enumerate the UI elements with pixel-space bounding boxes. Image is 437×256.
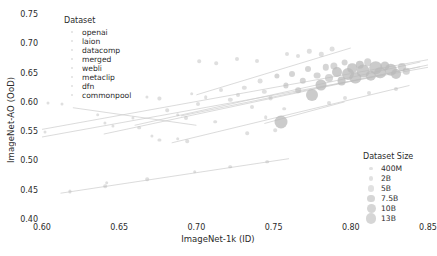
legend-size-item[interactable]: 5B	[363, 184, 433, 194]
legend-item-label: merged	[80, 55, 111, 64]
trend-line	[61, 159, 290, 194]
legend-size-item[interactable]: 13B	[363, 214, 433, 224]
data-point	[296, 87, 302, 93]
legend-size-label: 5B	[379, 184, 391, 193]
legend-size-label: 400M	[379, 164, 402, 173]
legend-dataset-size: Dataset Size 400M2B5B7.5B10B13B	[363, 152, 433, 224]
data-point	[198, 60, 202, 64]
legend-size-label: 13B	[379, 214, 396, 223]
y-axis-tick-label: 0.65	[4, 68, 38, 77]
y-axis-tick-label: 0.50	[4, 156, 38, 165]
data-point	[61, 103, 64, 106]
y-axis-tick-label: 0.45	[4, 185, 38, 194]
data-point	[306, 89, 318, 101]
data-point	[96, 113, 100, 117]
data-point	[190, 92, 194, 96]
data-point	[184, 116, 188, 120]
legend-item-label: commonpool	[80, 91, 131, 100]
data-point	[266, 160, 270, 164]
data-point	[246, 132, 250, 136]
legend-size-item[interactable]: 10B	[363, 204, 433, 214]
legend-item[interactable]: laion	[64, 37, 154, 46]
data-point	[313, 72, 320, 79]
legend-size-item[interactable]: 2B	[363, 174, 433, 184]
data-point	[235, 57, 239, 61]
legend-size-marker-icon	[363, 185, 379, 191]
legend-size-marker-icon	[363, 204, 379, 213]
data-point	[204, 95, 208, 99]
x-axis-label: ImageNet-1k (ID)	[0, 234, 436, 244]
data-point	[285, 52, 289, 56]
y-axis-ticks: 0.400.450.500.550.600.650.700.75	[0, 0, 38, 256]
legend-item[interactable]: openai	[64, 28, 154, 37]
legend-size-item[interactable]: 7.5B	[363, 194, 433, 204]
legend-marker-icon	[64, 85, 80, 87]
data-point	[283, 107, 287, 111]
legend-size-marker-icon	[363, 213, 379, 223]
data-point	[257, 79, 262, 84]
legend-size-label: 2B	[379, 174, 391, 183]
legend-item[interactable]: metaclip	[64, 73, 154, 82]
legend-dataset: Dataset openailaiondatacompmergedweblime…	[64, 16, 154, 100]
data-point	[213, 120, 217, 124]
data-point	[215, 61, 219, 65]
data-point	[255, 59, 259, 63]
legend-size-title: Dataset Size	[363, 152, 433, 161]
legend-marker-icon	[64, 76, 80, 78]
data-point	[44, 131, 47, 134]
data-point	[185, 139, 189, 143]
legend-item[interactable]: webli	[64, 64, 154, 73]
data-point	[268, 96, 273, 101]
legend-item-label: metaclip	[80, 73, 115, 82]
legend-dataset-items: openailaiondatacompmergedweblimetaclipdf…	[64, 28, 154, 100]
legend-item-label: openai	[80, 28, 108, 37]
legend-item[interactable]: merged	[64, 55, 154, 64]
data-point	[394, 87, 398, 91]
legend-size-label: 7.5B	[379, 194, 398, 203]
legend-item[interactable]: datacomp	[64, 46, 154, 55]
data-point	[229, 165, 233, 169]
legend-item[interactable]: commonpool	[64, 91, 154, 100]
legend-item-label: datacomp	[80, 46, 120, 55]
data-point	[250, 105, 254, 109]
data-point	[330, 47, 335, 52]
y-axis-tick-label: 0.55	[4, 127, 38, 136]
y-axis-tick-label: 0.60	[4, 97, 38, 106]
data-point	[273, 128, 277, 132]
data-point	[165, 108, 169, 112]
data-point	[176, 137, 180, 141]
legend-size-item[interactable]: 400M	[363, 164, 433, 174]
legend-marker-icon	[64, 67, 80, 69]
legend-size-label: 10B	[379, 204, 396, 213]
data-point	[305, 66, 311, 72]
data-point	[105, 181, 109, 185]
legend-item-label: webli	[80, 64, 102, 73]
y-axis-tick-label: 0.70	[4, 39, 38, 48]
x-axis-tick-label: 0.65	[110, 223, 128, 232]
data-point	[327, 101, 331, 105]
data-point	[219, 88, 223, 92]
data-point	[104, 184, 108, 188]
legend-size-items: 400M2B5B7.5B10B13B	[363, 164, 433, 224]
data-point	[343, 96, 347, 100]
legend-marker-icon	[64, 58, 80, 60]
data-point	[264, 115, 268, 119]
x-axis-tick-label: 0.75	[265, 223, 283, 232]
legend-item-label: dfn	[80, 82, 94, 91]
legend-item[interactable]: dfn	[64, 82, 154, 91]
x-axis-tick-label: 0.80	[342, 223, 360, 232]
legend-item-label: laion	[80, 37, 100, 46]
y-axis-tick-label: 0.75	[4, 10, 38, 19]
data-point	[296, 54, 300, 58]
data-point	[193, 170, 197, 174]
legend-marker-icon	[64, 40, 80, 42]
x-axis-tick-label: 0.85	[419, 223, 437, 232]
legend-size-marker-icon	[363, 167, 379, 170]
data-point	[341, 59, 348, 66]
data-point	[196, 102, 200, 106]
legend-marker-icon	[64, 49, 80, 51]
legend-marker-icon	[64, 94, 80, 96]
data-point	[289, 71, 295, 77]
data-point	[367, 91, 371, 95]
